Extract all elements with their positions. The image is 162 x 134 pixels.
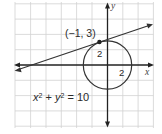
tangent-point [97, 40, 101, 44]
coordinate-plane: (−1, 3) 2 2 x y x2 + y2 = 10 [0, 0, 162, 134]
equation-label: x2 + y2 = 10 [32, 91, 89, 103]
point-label: (−1, 3) [65, 27, 96, 39]
eq-rest: = 10 [64, 91, 89, 103]
x-axis-label: x [144, 67, 150, 77]
eq-plus: + [42, 91, 55, 103]
y-axis-label: y [110, 1, 116, 11]
y-tick-label: 2 [97, 48, 102, 59]
x-tick-label: 2 [119, 67, 124, 78]
x-axis [14, 63, 154, 68]
